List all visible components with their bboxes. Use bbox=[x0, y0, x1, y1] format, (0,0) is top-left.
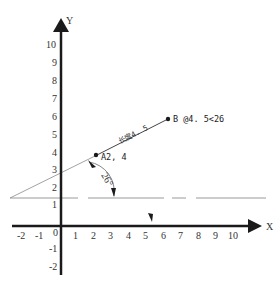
angle-arrow-start-icon bbox=[88, 160, 96, 168]
y-tick: 9 bbox=[52, 57, 57, 68]
y-tick: 7 bbox=[52, 93, 57, 104]
x-tick: 4 bbox=[126, 230, 131, 241]
x-tick: 2 bbox=[91, 230, 96, 241]
x-tick: 10 bbox=[228, 230, 238, 241]
x-tick: 6 bbox=[161, 230, 166, 241]
x-tick: 1 bbox=[73, 230, 78, 241]
angle-arrow-end-icon bbox=[111, 188, 116, 197]
y-tick: 2 bbox=[52, 182, 57, 193]
x-tick: -2 bbox=[17, 230, 25, 241]
y-tick: 5 bbox=[52, 129, 57, 140]
y-tick: 6 bbox=[52, 111, 57, 122]
x-tick: 9 bbox=[213, 230, 218, 241]
y-tick: 4 bbox=[52, 147, 57, 158]
y-axis-label: Y bbox=[66, 15, 73, 26]
y-tick: 10 bbox=[46, 39, 56, 50]
angle-label: 26° bbox=[99, 171, 116, 189]
x-tick: 3 bbox=[108, 230, 113, 241]
point-a-label: A2, 4 bbox=[101, 152, 127, 162]
segment-length-label: 长度4. 5 bbox=[116, 122, 149, 145]
x-tick: -1 bbox=[35, 230, 43, 241]
y-tick: 8 bbox=[52, 75, 57, 86]
x-tick: 7 bbox=[178, 230, 183, 241]
cursor-marker-icon bbox=[148, 213, 153, 222]
origin-label: 0 bbox=[53, 227, 58, 238]
y-tick: -2 bbox=[49, 261, 57, 272]
x-tick-labels: -2 -1 1 2 3 4 5 6 7 8 9 10 bbox=[17, 230, 238, 241]
y-tick: -1 bbox=[49, 243, 57, 254]
x-axis-label: X bbox=[266, 221, 274, 232]
y-tick: 3 bbox=[52, 164, 57, 175]
point-b-label: B @4. 5<26 bbox=[173, 114, 224, 124]
x-axis-arrow-icon bbox=[248, 219, 262, 233]
x-tick: 5 bbox=[143, 230, 148, 241]
point-b bbox=[166, 117, 170, 121]
x-tick: 8 bbox=[196, 230, 201, 241]
coordinate-diagram: Y X 0 -2 -1 1 2 3 4 5 6 7 8 9 10 10 9 8 … bbox=[0, 0, 275, 282]
point-a bbox=[94, 153, 98, 157]
y-tick: 1 bbox=[52, 199, 57, 210]
